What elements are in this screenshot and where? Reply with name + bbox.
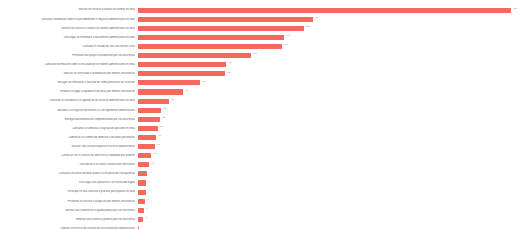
- bar-value-label: 62: [203, 80, 206, 83]
- bar-row: Consultar una base de datos publica o un…: [0, 169, 524, 178]
- bar[interactable]: [138, 117, 160, 122]
- category-label: Consultar informacion sobre un procedimi…: [3, 18, 135, 21]
- category-label: Participar en una consulta o proceso par…: [3, 190, 135, 193]
- bar-value-label: 87: [228, 71, 231, 74]
- bar-value-label: 1: [141, 225, 142, 228]
- bar-row: Descargar un formulario o documento admi…: [0, 33, 524, 42]
- bar[interactable]: [138, 208, 144, 213]
- category-label: Entregar documentacion complementaria po…: [3, 118, 135, 121]
- category-label: Solicitar una subvencion o ayuda publica…: [3, 209, 135, 212]
- bar[interactable]: [138, 62, 226, 67]
- bar[interactable]: [138, 99, 169, 104]
- bar-value-label: 20: [160, 125, 163, 128]
- bar-row: Renovar una licencia o permiso por via e…: [0, 215, 524, 224]
- bar-row: Participar en una consulta o proceso par…: [0, 188, 524, 197]
- bar-row: Consultar informacion sobre el resultado…: [0, 60, 524, 69]
- bar-value-label: 112: [253, 52, 257, 55]
- bar-row: Descargar una aplicacion o un certificad…: [0, 178, 524, 187]
- bar-value-label: 23: [163, 107, 166, 110]
- bar-row: Presentar una queja o reclamacion por vi…: [0, 51, 524, 60]
- bar[interactable]: [138, 153, 151, 158]
- bar-row: Contactar con el servicio de atencion al…: [0, 151, 524, 160]
- bar-value-label: 7: [147, 198, 148, 201]
- bar[interactable]: [138, 8, 511, 13]
- bar-track: [138, 135, 156, 140]
- bar-track: [138, 199, 145, 204]
- category-label: Solicitar un certificado o acreditacion …: [3, 72, 135, 75]
- bar-row: Presentar un recurso o alegacion por med…: [0, 197, 524, 206]
- bar[interactable]: [138, 44, 282, 49]
- bar[interactable]: [138, 135, 156, 140]
- bar-row: Solicitar una subvencion o ayuda publica…: [0, 206, 524, 215]
- category-label: Suscribirse a un aviso o notificacion el…: [3, 163, 135, 166]
- bar[interactable]: [138, 180, 146, 185]
- bar[interactable]: [138, 126, 158, 131]
- bar-track: [138, 62, 226, 67]
- bar-value-label: 18: [158, 134, 161, 137]
- bar-row: Consultar la normativa o legislacion apl…: [0, 124, 524, 133]
- category-label: Acceder a un registro electronico o a un…: [3, 109, 135, 112]
- bar-track: [138, 35, 284, 40]
- bar-row: Entregar documentacion complementaria po…: [0, 115, 524, 124]
- bar-track: [138, 153, 151, 158]
- bar-row: Acceder a un registro electronico o a un…: [0, 106, 524, 115]
- bar[interactable]: [138, 217, 143, 222]
- bar-track: [138, 26, 304, 31]
- bar-value-label: 11: [151, 162, 154, 165]
- chart-plot-area: Solicitar un servicio o realizar un tram…: [0, 0, 524, 229]
- bar-value-label: 6: [146, 207, 147, 210]
- bar-value-label: 8: [148, 180, 149, 183]
- category-label: Descargar un formulario o documento admi…: [3, 36, 135, 39]
- bar[interactable]: [138, 162, 149, 167]
- bar-track: [138, 208, 144, 213]
- category-label: Realizar un pago o liquidacion de tasas …: [3, 90, 135, 93]
- bar-value-label: 13: [153, 152, 156, 155]
- bar-row: Consultar el estado de una solicitud en …: [0, 42, 524, 51]
- bar-track: [138, 17, 313, 22]
- bar-value-label: 143: [284, 43, 288, 46]
- bar[interactable]: [138, 26, 304, 31]
- bar-row: Tramitar un recurso de revision de una r…: [0, 224, 524, 229]
- bar[interactable]: [138, 53, 251, 58]
- category-label: Obtener un servicio o realizar un tramit…: [3, 27, 135, 30]
- bar-row: Solicitar una cita previa para un servic…: [0, 142, 524, 151]
- bar[interactable]: [138, 35, 284, 40]
- bar-track: [138, 162, 149, 167]
- bar-row: Recoger un formulario o solicitud de for…: [0, 78, 524, 87]
- category-label: Solicitar un servicio o realizar un tram…: [3, 8, 135, 11]
- category-label: Solicitar una cita previa para un servic…: [3, 145, 135, 148]
- bar[interactable]: [138, 108, 161, 113]
- category-label: Consultar la normativa o legislacion apl…: [3, 127, 135, 130]
- bar-track: [138, 44, 282, 49]
- bar[interactable]: [138, 226, 139, 229]
- bar-track: [138, 190, 146, 195]
- bar-value-label: 88: [229, 61, 232, 64]
- horizontal-bar-chart: Solicitar un servicio o realizar un tram…: [0, 0, 524, 229]
- bar[interactable]: [138, 80, 200, 85]
- bar-track: [138, 99, 169, 104]
- category-label: Consultar informacion sobre el resultado…: [3, 63, 135, 66]
- category-label: Recoger un formulario o solicitud de for…: [3, 81, 135, 84]
- bar[interactable]: [138, 199, 145, 204]
- bar[interactable]: [138, 171, 147, 176]
- bar-value-label: 45: [185, 89, 188, 92]
- bar-row: Solicitar un certificado o acreditacion …: [0, 69, 524, 78]
- bar-value-label: 145: [286, 34, 290, 37]
- category-label: Consultar el estado de una solicitud en …: [3, 45, 135, 48]
- bar-track: [138, 80, 200, 85]
- bar[interactable]: [138, 89, 183, 94]
- bar[interactable]: [138, 71, 225, 76]
- bar-row: Consultar informacion sobre un procedimi…: [0, 15, 524, 24]
- bar[interactable]: [138, 17, 313, 22]
- bar-value-label: 8: [148, 189, 149, 192]
- bar-value-label: 165: [306, 25, 310, 28]
- bar-row: Consultar el calendario o la agenda de u…: [0, 97, 524, 106]
- bar-track: [138, 71, 225, 76]
- bar-value-label: 5: [145, 216, 146, 219]
- category-label: Renovar una licencia o permiso por via e…: [3, 218, 135, 221]
- bar-track: [138, 180, 146, 185]
- bar-row: Obtener un servicio o realizar un tramit…: [0, 24, 524, 33]
- category-label: Descargar una aplicacion o un certificad…: [3, 181, 135, 184]
- bar[interactable]: [138, 144, 155, 149]
- bar[interactable]: [138, 190, 146, 195]
